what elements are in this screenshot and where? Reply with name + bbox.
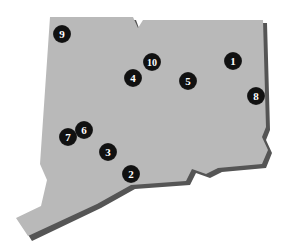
map-marker-5[interactable]: 5 [180, 73, 197, 90]
map-marker-6[interactable]: 6 [76, 122, 93, 139]
map-marker-3[interactable]: 3 [100, 144, 117, 161]
map-marker-10[interactable]: 10 [144, 54, 161, 71]
state-outline [16, 17, 268, 236]
map-marker-4[interactable]: 4 [125, 70, 142, 87]
map-marker-2[interactable]: 2 [123, 166, 140, 183]
map-marker-9[interactable]: 9 [54, 26, 71, 43]
map-marker-1[interactable]: 1 [225, 53, 242, 70]
state-map [0, 0, 286, 249]
map-marker-8[interactable]: 8 [248, 88, 265, 105]
map-marker-7[interactable]: 7 [60, 129, 77, 146]
